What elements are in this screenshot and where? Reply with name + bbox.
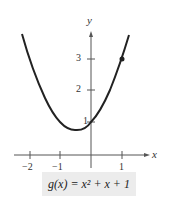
x-tick-label-m2: −2 [22, 161, 33, 172]
function-caption: g(x) = x² + x + 1 [42, 172, 136, 196]
y-tick-label-1: 1 [83, 115, 88, 126]
point-1-3 [120, 57, 125, 62]
y-tick-label-2: 2 [76, 83, 81, 94]
y-tick-label-3: 3 [76, 52, 81, 63]
x-axis-label: x [152, 148, 157, 160]
y-axis-label: y [87, 14, 92, 26]
x-tick-label-m1: −1 [52, 161, 63, 172]
x-axis-arrow-icon [144, 153, 150, 157]
x-tick-label-1: 1 [119, 161, 124, 172]
y-axis-arrow-icon [89, 31, 93, 37]
